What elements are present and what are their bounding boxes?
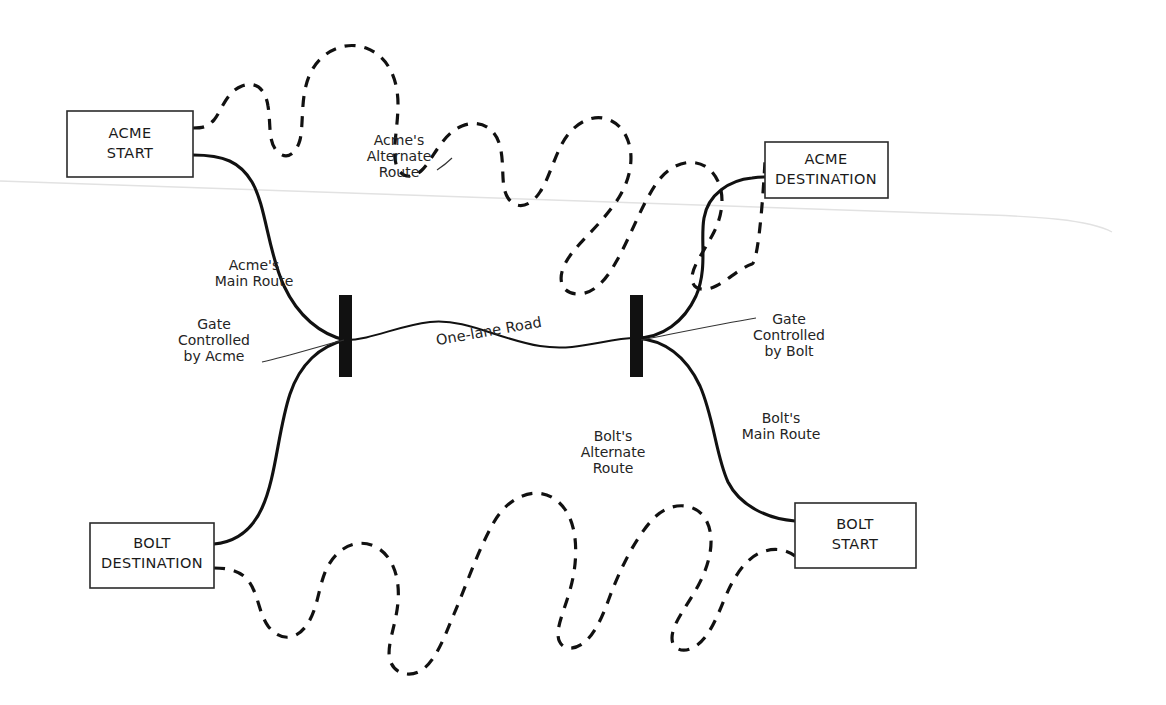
gate-acme-bar[interactable] <box>339 295 352 377</box>
acme-main-route-path <box>193 155 345 340</box>
acme-main-label-line2: Main Route <box>215 273 294 289</box>
gate-acme-label-line3: by Acme <box>184 348 245 364</box>
acme-start-label-line2: START <box>107 145 154 161</box>
acme-alternate-label-line3: Route <box>379 164 420 180</box>
gate-acme-label-line1: Gate <box>197 316 231 332</box>
bolt-destination-label-line2: DESTINATION <box>101 555 203 571</box>
node-acme-start[interactable] <box>67 111 193 177</box>
acme-start-label-line1: ACME <box>108 125 151 141</box>
bolt-main-label-line1: Bolt's <box>762 410 801 426</box>
gate-acme-label-line2: Controlled <box>178 332 250 348</box>
diagram-canvas: ACME START ACME DESTINATION BOLT DESTINA… <box>0 0 1166 705</box>
bolt-start-label-line1: BOLT <box>836 516 874 532</box>
bolt-alternate-route-path <box>214 493 795 674</box>
acme-destination-label-line1: ACME <box>804 151 847 167</box>
gate-bolt-label-line1: Gate <box>772 311 806 327</box>
bolt-alternate-label-line2: Alternate <box>581 444 646 460</box>
gate-bolt-label-line2: Controlled <box>753 327 825 343</box>
bolt-destination-label-line1: BOLT <box>133 535 171 551</box>
gate-bolt-bar[interactable] <box>630 295 643 377</box>
gate-bolt-leader <box>641 318 756 340</box>
bolt-alternate-label-line1: Bolt's <box>594 428 633 444</box>
bolt-alternate-label-line3: Route <box>593 460 634 476</box>
scan-artifact-line <box>0 181 1112 232</box>
acme-main-route-east-path <box>636 177 765 338</box>
gate-bolt-label-line3: by Bolt <box>764 343 814 359</box>
acme-destination-label-line2: DESTINATION <box>775 171 877 187</box>
acme-alternate-leader <box>437 158 452 170</box>
acme-alternate-label-line1: Acme's <box>374 132 424 148</box>
bolt-main-route-west-path <box>214 340 345 544</box>
acme-alternate-label-line2: Alternate <box>367 148 432 164</box>
bolt-start-label-line2: START <box>832 536 879 552</box>
bolt-main-label-line2: Main Route <box>742 426 821 442</box>
gate-acme-leader <box>262 340 344 362</box>
route-diagram: ACME START ACME DESTINATION BOLT DESTINA… <box>0 0 1166 705</box>
acme-main-label-line1: Acme's <box>229 257 279 273</box>
